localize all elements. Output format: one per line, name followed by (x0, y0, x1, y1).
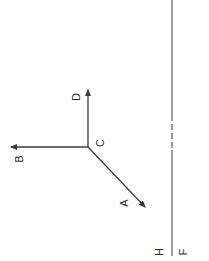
label-f: F (177, 248, 189, 255)
label-h: H (153, 248, 165, 256)
label-c: C (94, 139, 106, 147)
label-a: A (118, 199, 130, 207)
vector-diagram: D B C A H F (0, 0, 209, 261)
label-d: D (70, 93, 82, 101)
label-b: B (13, 155, 25, 162)
vector-a-arrow (88, 147, 145, 207)
